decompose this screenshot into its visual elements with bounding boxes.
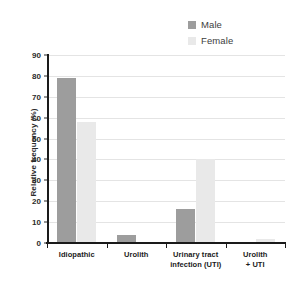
legend-label-female: Female (201, 36, 233, 46)
x-tick-mark (47, 244, 48, 248)
plot-area: 0102030405060708090 (47, 55, 285, 243)
y-tick-label: 30 (32, 176, 41, 185)
y-gridline (47, 55, 285, 56)
legend-entry-female: Female (188, 34, 278, 47)
y-tick-label: 10 (32, 218, 41, 227)
y-tick-label: 70 (32, 92, 41, 101)
y-gridline (47, 97, 285, 98)
y-tick-label: 60 (32, 113, 41, 122)
x-tick-mark (226, 244, 227, 248)
x-tick-mark (285, 244, 286, 248)
y-tick-label: 90 (32, 51, 41, 60)
y-tick-label: 40 (32, 155, 41, 164)
legend-swatch-female (188, 37, 196, 45)
y-tick-label: 50 (32, 134, 41, 143)
y-tick-label: 80 (32, 71, 41, 80)
legend-label-male: Male (201, 20, 222, 30)
y-tick-label: 20 (32, 197, 41, 206)
x-tick-mark (166, 244, 167, 248)
y-tick-label: 0 (37, 239, 41, 248)
x-tick-label: Urolith (107, 250, 167, 260)
bar-male-0 (57, 78, 76, 243)
legend-entry-male: Male (188, 18, 278, 31)
x-tick-label: Idiopathic (47, 250, 107, 260)
x-tick-label: Urinary tractinfection (UTI) (166, 250, 226, 269)
bar-female-2 (196, 159, 215, 243)
x-tick-mark (107, 244, 108, 248)
chart-legend: Male Female (188, 18, 278, 50)
bar-chart-figure: Male Female Relative frequency (%) 01020… (0, 0, 299, 288)
bar-female-0 (77, 122, 96, 243)
y-gridline (47, 118, 285, 119)
x-tick-label: Urolith+ UTI (226, 250, 286, 269)
legend-swatch-male (188, 21, 196, 29)
y-axis-line (47, 54, 49, 244)
bar-male-2 (176, 209, 195, 243)
y-gridline (47, 76, 285, 77)
